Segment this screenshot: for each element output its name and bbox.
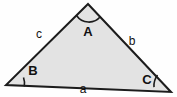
triangle-shape (6, 4, 171, 92)
triangle-svg (0, 0, 177, 97)
triangle-diagram: A B C a b c (0, 0, 177, 97)
